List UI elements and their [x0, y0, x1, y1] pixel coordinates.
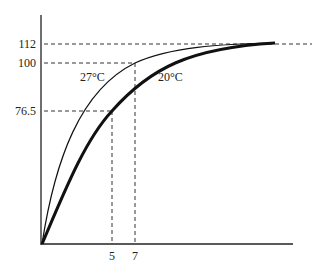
y-tick-112: 112: [18, 37, 36, 51]
label-27c: 27°C: [80, 70, 105, 84]
saturation-chart: 112 100 76.5 5 7 27°C 20°C: [0, 0, 321, 273]
y-tick-76-5: 76.5: [15, 104, 36, 118]
label-20c: 20°C: [158, 70, 183, 84]
x-tick-5: 5: [109, 249, 115, 263]
x-tick-7: 7: [132, 249, 138, 263]
y-tick-100: 100: [18, 56, 36, 70]
